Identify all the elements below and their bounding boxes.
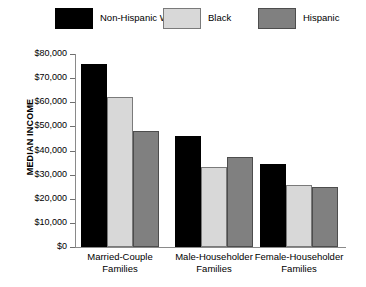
bar [201, 167, 227, 247]
x-axis-line [75, 247, 346, 248]
bar-group [175, 54, 253, 247]
y-axis-tick-label: $20,000 [34, 194, 67, 203]
category-label-line-2: Families [244, 263, 354, 275]
category-label-line-1: Married-Couple [87, 251, 152, 262]
y-axis-tick-label: $50,000 [34, 121, 67, 130]
chart-legend: Non-Hispanic White Black Hispanic [0, 0, 366, 36]
legend-swatch-non-hispanic-white [55, 8, 93, 29]
y-axis-tick-label: $0 [57, 242, 67, 251]
plot-area [76, 54, 345, 247]
category-label-line-1: Female-Householder [255, 251, 344, 262]
y-axis-tick [70, 199, 75, 200]
legend-swatch-hispanic [258, 8, 296, 29]
y-axis-tick [70, 102, 75, 103]
bar [133, 131, 159, 247]
legend-item-black: Black [163, 7, 231, 29]
bar [227, 157, 253, 247]
y-axis-tick-label: $60,000 [34, 97, 67, 106]
y-axis-tick [70, 54, 75, 55]
caption-fragment [46, 282, 246, 287]
y-axis-tick-label: $80,000 [34, 49, 67, 58]
bar [312, 187, 338, 247]
bar-group [260, 54, 338, 247]
y-axis-tick-label: $40,000 [34, 146, 67, 155]
y-axis-tick [70, 78, 75, 79]
bar [81, 64, 107, 247]
bar [260, 164, 286, 247]
y-axis-tick-label: $70,000 [34, 73, 67, 82]
legend-label-black: Black [208, 13, 231, 23]
y-axis-tick [70, 175, 75, 176]
legend-label-hispanic: Hispanic [303, 13, 339, 23]
y-axis-tick-label: $10,000 [34, 218, 67, 227]
y-axis-tick [70, 223, 75, 224]
x-axis-category-label: Female-HouseholderFamilies [244, 251, 354, 274]
bar-chart: MEDIAN INCOME $80,000$70,000$60,000$50,0… [0, 36, 366, 287]
bar [175, 136, 201, 247]
y-axis-tick [70, 247, 75, 248]
legend-swatch-black [163, 8, 201, 29]
legend-item-hispanic: Hispanic [258, 7, 339, 29]
category-label-line-1: Male-Householder [175, 251, 253, 262]
bar-group [81, 54, 159, 247]
y-axis-tick-label: $30,000 [34, 170, 67, 179]
bar [107, 97, 133, 247]
y-axis-tick [70, 151, 75, 152]
y-axis-tick [70, 126, 75, 127]
bar [286, 185, 312, 247]
